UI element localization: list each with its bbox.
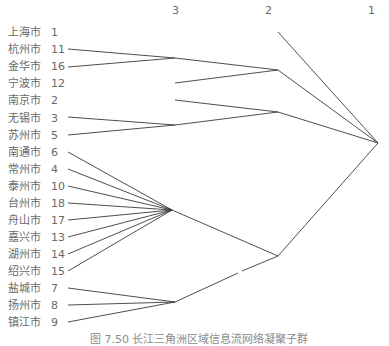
figure-caption: 图 7.50 长江三角洲区域信息流网络凝聚子群: [90, 330, 309, 346]
